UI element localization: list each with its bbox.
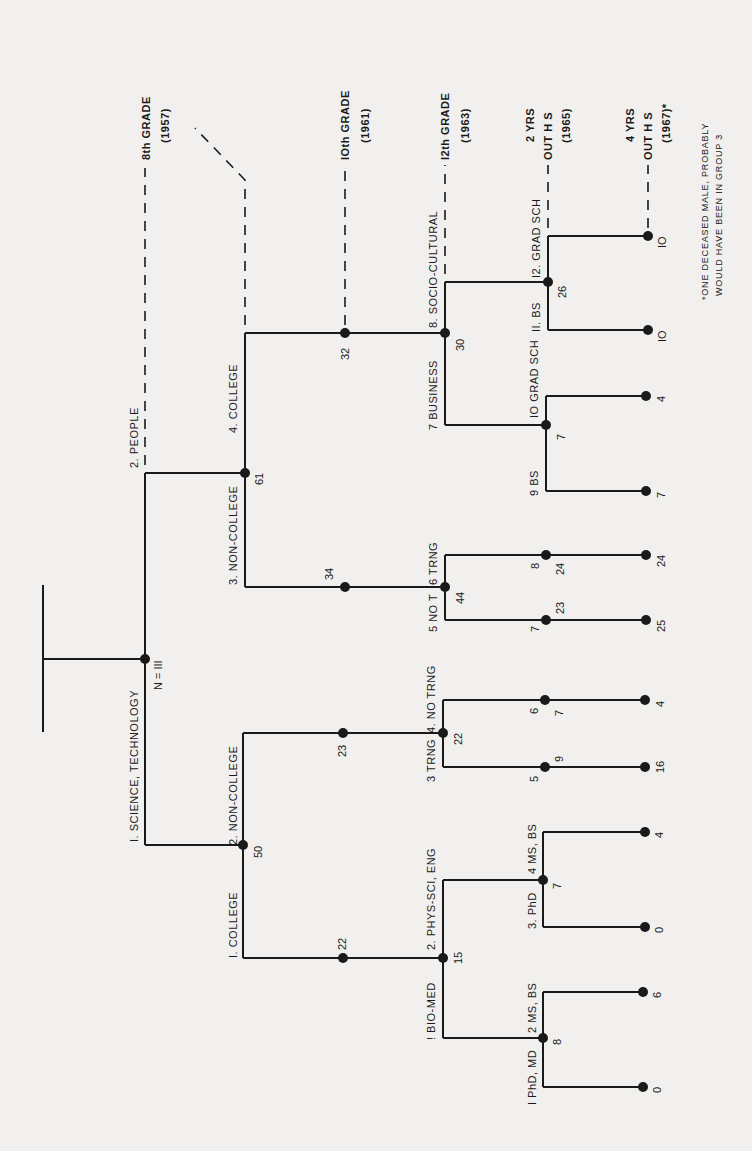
leaf-business-bs: 7 — [656, 492, 667, 498]
count-bio: 8 — [552, 1039, 563, 1045]
branch-business: 7 BUSINESS — [428, 360, 439, 430]
branch-socio-grad: I2. GRAD SCH — [531, 199, 542, 278]
timeline-2yrs: 2 YRS — [525, 108, 536, 142]
count-sci-non-college: 23 — [337, 745, 348, 757]
timeline-12th-year: (1963) — [460, 108, 471, 143]
count-people: 61 — [254, 473, 265, 485]
footnote-line2: WOULD HAVE BEEN IN GROUP 3 — [714, 134, 725, 296]
leaf-people-trng: 24 — [656, 555, 667, 567]
count-people-non-college-split: 44 — [455, 592, 466, 604]
count-people-college-split: 30 — [455, 339, 466, 351]
branch-bio-med: ! BIO-MED — [426, 982, 437, 1040]
branch-people-no-trng: 5 NO T — [428, 594, 439, 632]
footnote-line1: *ONE DECEASED MALE, PROBABLY — [700, 123, 711, 300]
count-people-non-college: 34 — [324, 568, 335, 580]
count-phys: 7 — [552, 883, 563, 889]
count-sci-tech: 50 — [253, 846, 264, 858]
leaf-bio-phd-md: 0 — [652, 1087, 663, 1093]
branch-phys-phd: 3. PhD — [527, 892, 538, 929]
branch-business-grad: IO GRAD SCH — [529, 340, 540, 418]
timeline-4yrs-year: (1967)* — [661, 103, 672, 143]
leaf-socio-bs: IO — [657, 330, 668, 342]
timeline-10th-grade: IOth GRADE — [340, 90, 351, 160]
leaf-phys-ms-bs: 4 — [654, 832, 665, 838]
tree-diagram — [0, 0, 752, 1151]
branch-sci-non-college: 2. NON-COLLEGE — [228, 746, 239, 845]
branch-people-non-college: 3. NON-COLLEGE — [228, 486, 239, 585]
branch-socio-cultural: 8. SOCIO-CULTURAL — [428, 211, 439, 328]
group-people-trng: 8 — [530, 563, 541, 569]
branch-bio-phd-md: I PhD, MD — [527, 1050, 538, 1105]
branch-phys-sci: 2. PHYS-SCI, ENG — [426, 848, 437, 950]
branch-sci-tech: I. SCIENCE, TECHNOLOGY — [129, 690, 140, 842]
leaf-business-grad: 4 — [656, 396, 667, 402]
branch-phys-ms-bs: 4 MS, BS — [527, 824, 538, 874]
timeline-10th-year: (1961) — [360, 108, 371, 143]
timeline-2yrs-out: OUT H S — [543, 112, 554, 160]
leaf-sci-trng: 16 — [655, 761, 666, 773]
count-people-no-trng: 23 — [555, 602, 566, 614]
timeline-8th-year: (1957) — [160, 108, 171, 143]
count-people-trng: 24 — [555, 563, 566, 575]
group-sci-trng: 5 — [529, 776, 540, 782]
root-count: N = III — [153, 660, 164, 690]
count-sci-trng: 9 — [554, 756, 565, 762]
branch-bio-ms-bs: 2 MS, BS — [527, 983, 538, 1033]
timeline-8th-grade: 8th GRADE — [141, 96, 152, 160]
branch-socio-bs: II. BS — [531, 302, 542, 332]
count-sci-no-trng: 7 — [554, 710, 565, 716]
count-sci-college: 22 — [337, 938, 348, 950]
branch-sci-college: I. COLLEGE — [228, 892, 239, 958]
branch-sci-trng: 3 TRNG — [426, 739, 437, 782]
count-business: 7 — [556, 434, 567, 440]
leaf-phys-phd: 0 — [654, 927, 665, 933]
branch-people: 2. PEOPLE — [129, 407, 140, 468]
count-socio: 26 — [557, 286, 568, 298]
group-sci-no-trng: 6 — [529, 708, 540, 714]
count-people-college: 32 — [340, 348, 351, 360]
branch-sci-no-trng: 4. NO TRNG — [426, 665, 437, 733]
timeline-12th-grade: I2th GRADE — [440, 93, 451, 160]
timeline-2yrs-year: (1965) — [561, 108, 572, 143]
leaf-people-no-trng: 25 — [656, 620, 667, 632]
branch-people-trng: 6 TRNG — [428, 542, 439, 585]
count-sci-college-split: 15 — [453, 952, 464, 964]
leaf-bio-ms-bs: 6 — [652, 992, 663, 998]
timeline-4yrs: 4 YRS — [625, 108, 636, 142]
count-sci-non-college-split: 22 — [453, 733, 464, 745]
timeline-4yrs-out: OUT H S — [643, 112, 654, 160]
branch-business-bs: 9 BS — [529, 470, 540, 496]
leaf-sci-no-trng: 4 — [655, 701, 666, 707]
branch-people-college: 4. COLLEGE — [228, 364, 239, 433]
leaf-socio-grad: IO — [657, 236, 668, 248]
group-people-no-trng: 7 — [530, 626, 541, 632]
